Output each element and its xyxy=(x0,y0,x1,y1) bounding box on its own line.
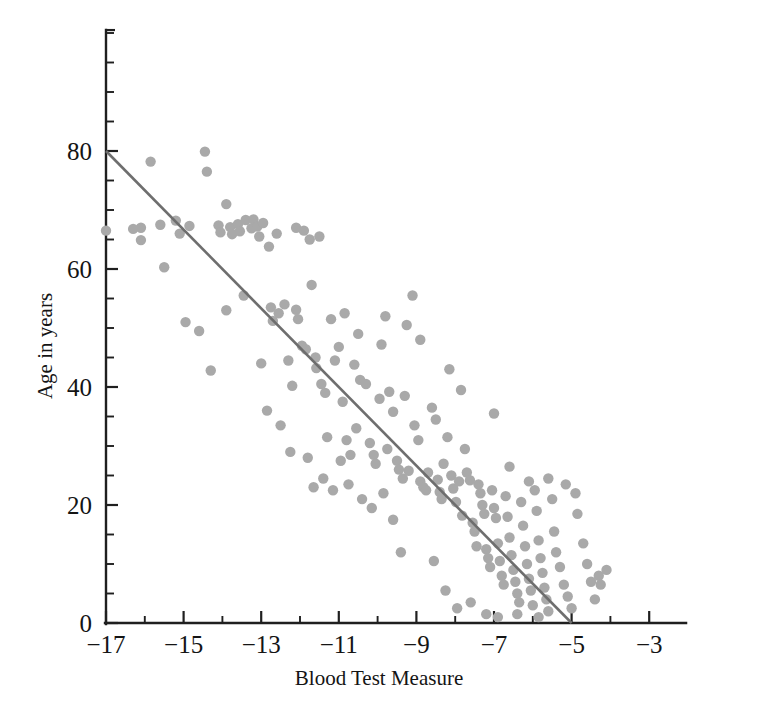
scatter-point xyxy=(493,612,503,622)
scatter-point xyxy=(483,553,493,563)
y-axis-title: Age in years xyxy=(33,293,57,399)
scatter-point xyxy=(551,547,561,557)
scatter-point xyxy=(524,476,534,486)
scatter-point xyxy=(601,565,611,575)
scatter-point xyxy=(572,509,582,519)
scatter-point xyxy=(400,391,410,401)
scatter-point xyxy=(328,485,338,495)
scatter-point xyxy=(145,156,155,166)
scatter-point xyxy=(316,379,326,389)
scatter-point xyxy=(221,305,231,315)
scatter-point xyxy=(582,559,592,569)
scatter-point xyxy=(438,459,448,469)
scatter-point xyxy=(528,600,538,610)
scatter-point xyxy=(279,299,289,309)
scatter-point xyxy=(456,385,466,395)
plot-canvas: −17−15−13−11−9−7−5−3020406080Blood Test … xyxy=(0,0,772,712)
scatter-point xyxy=(343,479,353,489)
scatter-point xyxy=(101,225,111,235)
x-axis-title: Blood Test Measure xyxy=(295,666,463,690)
scatter-point xyxy=(497,571,507,581)
scatter-point xyxy=(388,407,398,417)
x-axis-tick-label: −3 xyxy=(636,631,663,658)
scatter-point xyxy=(535,553,545,563)
scatter-point xyxy=(320,388,330,398)
scatter-point xyxy=(380,311,390,321)
scatter-point xyxy=(475,488,485,498)
scatter-point xyxy=(563,591,573,601)
scatter-point xyxy=(351,423,361,433)
scatter-point xyxy=(293,314,303,324)
scatter-point xyxy=(273,308,283,318)
scatter-point xyxy=(466,597,476,607)
scatter-point xyxy=(221,199,231,209)
scatter-point xyxy=(339,308,349,318)
scatter-point xyxy=(369,450,379,460)
scatter-point xyxy=(314,231,324,241)
scatter-point xyxy=(384,387,394,397)
scatter-point xyxy=(396,547,406,557)
scatter-point xyxy=(559,579,569,589)
scatter-point xyxy=(454,476,464,486)
scatter-point xyxy=(442,432,452,442)
scatter-point xyxy=(537,568,547,578)
scatter-point xyxy=(264,241,274,251)
scatter-point xyxy=(184,221,194,231)
scatter-point xyxy=(337,397,347,407)
scatter-point xyxy=(409,420,419,430)
scatter-point xyxy=(590,594,600,604)
scatter-point xyxy=(473,479,483,489)
scatter-point xyxy=(275,420,285,430)
scatter-point xyxy=(136,235,146,245)
scatter-point xyxy=(504,461,514,471)
regression-line-layer xyxy=(106,151,572,623)
scatter-point xyxy=(202,166,212,176)
scatter-point xyxy=(376,339,386,349)
scatter-point xyxy=(361,379,371,389)
scatter-point xyxy=(128,224,138,234)
scatter-point xyxy=(429,556,439,566)
scatter-point xyxy=(402,320,412,330)
scatter-point xyxy=(370,459,380,469)
scatter-point xyxy=(155,220,165,230)
scatter-point xyxy=(444,364,454,374)
scatter-point xyxy=(543,606,553,616)
regression-line xyxy=(106,151,572,623)
scatter-plot-figure: −17−15−13−11−9−7−5−3020406080Blood Test … xyxy=(0,0,772,712)
scatter-point xyxy=(318,473,328,483)
scatter-point xyxy=(345,450,355,460)
scatter-point xyxy=(159,262,169,272)
scatter-point xyxy=(502,512,512,522)
scatter-point xyxy=(479,509,489,519)
scatter-point xyxy=(287,381,297,391)
scatter-point xyxy=(485,562,495,572)
scatter-point xyxy=(413,435,423,445)
scatter-point xyxy=(481,609,491,619)
scatter-point xyxy=(215,227,225,237)
scatter-point xyxy=(477,500,487,510)
scatter-point xyxy=(254,231,264,241)
y-axis-tick-label: 20 xyxy=(67,492,92,519)
scatter-point xyxy=(272,228,282,238)
scatter-point xyxy=(200,146,210,156)
x-axis-tick-label: −15 xyxy=(164,631,203,658)
scatter-point xyxy=(206,365,216,375)
scatter-point xyxy=(407,290,417,300)
scatter-point xyxy=(357,494,367,504)
scatter-point xyxy=(516,497,526,507)
scatter-point xyxy=(481,544,491,554)
scatter-point xyxy=(460,444,470,454)
x-axis-tick-label: −17 xyxy=(86,631,125,658)
scatter-point xyxy=(512,588,522,598)
scatter-point xyxy=(262,405,272,415)
scatter-point xyxy=(194,326,204,336)
scatter-point xyxy=(392,456,402,466)
scatter-point xyxy=(382,444,392,454)
scatter-point xyxy=(349,359,359,369)
scatter-point xyxy=(596,579,606,589)
scatter-point xyxy=(415,335,425,345)
scatter-point xyxy=(308,482,318,492)
scatter-point xyxy=(305,234,315,244)
scatter-point xyxy=(489,408,499,418)
scatter-point xyxy=(504,532,514,542)
